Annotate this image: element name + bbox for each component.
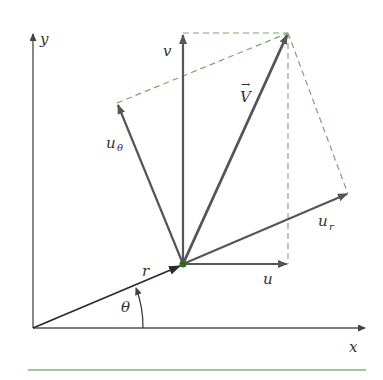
V-vector <box>183 35 287 264</box>
point-P <box>180 261 187 268</box>
u-theta-label: u <box>106 134 116 152</box>
u-theta-vector <box>118 105 183 264</box>
y-axis-label: y <box>39 30 49 48</box>
velocity-diagram: y x v u V → u θ u r r θ <box>0 0 383 380</box>
u-r-label: u <box>318 212 328 230</box>
u-r-subscript: r <box>329 221 335 232</box>
dashed-parallelogram <box>117 33 348 194</box>
V-arrow-label: → <box>241 78 250 91</box>
x-axis-label: x <box>349 338 358 356</box>
v-label: v <box>163 42 172 60</box>
u-label: u <box>263 270 273 288</box>
theta-label: θ <box>121 298 130 316</box>
u-theta-subscript: θ <box>117 142 123 153</box>
theta-arc <box>136 288 143 328</box>
r-label: r <box>142 262 150 280</box>
r-vector <box>33 266 180 328</box>
